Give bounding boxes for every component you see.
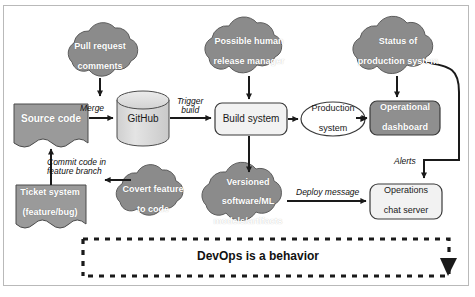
edge-label-line: Alerts <box>394 156 416 166</box>
banner-label-devops-is-a-behavior: DevOps is a behavior <box>83 249 433 263</box>
figure-devops-pipeline: Pull request comments Possible human rel… <box>0 0 475 297</box>
node-label-line: software/ML <box>213 197 282 207</box>
edge-label-trigger-build: Trigger build <box>177 97 203 115</box>
node-label-line: release manager <box>213 57 284 67</box>
node-label-line: Pull request <box>74 42 126 52</box>
node-label-line: Status of <box>358 37 439 47</box>
node-possible-human-release-manager: Possible human release manager <box>207 37 291 67</box>
node-label-line: GitHub <box>127 114 158 125</box>
node-label-line: production system <box>358 57 439 67</box>
node-pull-request-comments: Pull request comments <box>63 42 137 72</box>
edge-label-commit-code-in-feature-branch: Commit code in feature branch <box>47 158 106 176</box>
node-label-line: comments <box>74 62 126 72</box>
node-label-line: Covert feature <box>122 185 183 195</box>
node-label-line: chat server <box>384 206 429 216</box>
node-label-line: models/artifacts <box>213 217 282 227</box>
edge-label-line: build <box>181 105 199 115</box>
node-label-line: to code <box>122 205 183 215</box>
edge-label-line: feature branch <box>47 166 102 176</box>
node-label-line: Operations <box>384 186 429 196</box>
edge-label-merge: Merge <box>80 104 104 113</box>
node-label-line: (feature/bug) <box>20 208 79 218</box>
node-ticket-system: Ticket system (feature/bug) <box>14 190 86 216</box>
node-label-line: Possible human <box>213 37 284 47</box>
node-source-code: Source code <box>14 108 88 130</box>
node-label-line: Source code <box>21 114 81 125</box>
node-label-line: system <box>311 124 354 134</box>
node-label-line: Build system <box>223 114 280 125</box>
node-versioned-software: Versioned software/ML models/artifacts <box>205 185 291 219</box>
node-label-line: Operational <box>380 103 430 113</box>
node-production-system: Production system <box>303 107 363 131</box>
node-label-line: Ticket system <box>20 188 79 198</box>
node-status-of-production-system: Status of production system <box>353 37 443 67</box>
banner-arrowhead <box>440 258 457 276</box>
banner-text: DevOps is a behavior <box>197 249 319 263</box>
node-build-system: Build system <box>215 108 287 130</box>
edge-label-line: Deploy message <box>296 187 359 197</box>
node-covert-feature-to-code: Covert feature to code <box>117 188 189 212</box>
node-operational-dashboard: Operational dashboard <box>370 106 440 130</box>
edge-label-alerts: Alerts <box>394 157 416 166</box>
node-operations-chat-server: Operations chat server <box>370 189 442 213</box>
edge-label-deploy-message: Deploy message <box>296 188 359 197</box>
node-label-line: Versioned <box>213 178 282 188</box>
node-label-line: dashboard <box>380 123 430 133</box>
node-github: GitHub <box>117 109 169 129</box>
edge-label-line: Merge <box>80 103 104 113</box>
node-label-line: Production <box>311 104 354 114</box>
